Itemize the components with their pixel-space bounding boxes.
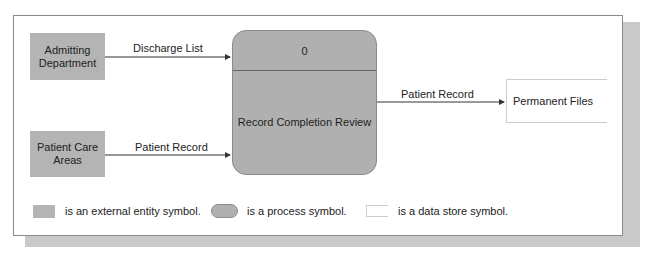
entity-label-line1: Admitting xyxy=(39,44,96,57)
external-entity-admitting-department: Admitting Department xyxy=(30,33,105,80)
external-entity-patient-care-areas: Patient Care Areas xyxy=(30,131,105,177)
legend-text: is a data store symbol. xyxy=(398,205,508,217)
legend-item-external-entity: is an external entity symbol. xyxy=(33,204,201,218)
process-swatch-icon xyxy=(211,204,238,218)
legend-text: is a process symbol. xyxy=(247,205,347,217)
flow-label-patient-record-out: Patient Record xyxy=(401,88,474,100)
entity-label-line2: Areas xyxy=(37,154,98,167)
process-number: 0 xyxy=(233,31,376,71)
data-store-permanent-files: Permanent Files xyxy=(506,79,607,123)
data-store-swatch-icon xyxy=(366,205,388,217)
flow-label-patient-record-in: Patient Record xyxy=(135,141,208,153)
legend-text: is an external entity symbol. xyxy=(65,205,201,217)
entity-label-line2: Department xyxy=(39,57,96,70)
flow-label-discharge-list: Discharge List xyxy=(133,42,203,54)
external-entity-swatch-icon xyxy=(33,205,55,218)
data-store-label: Permanent Files xyxy=(513,95,593,107)
process-record-completion-review: 0 Record Completion Review xyxy=(232,30,377,175)
legend-item-process: is a process symbol. xyxy=(211,204,347,218)
entity-label-line1: Patient Care xyxy=(37,141,98,154)
process-name: Record Completion Review xyxy=(233,70,376,174)
legend-item-data-store: is a data store symbol. xyxy=(366,204,508,218)
